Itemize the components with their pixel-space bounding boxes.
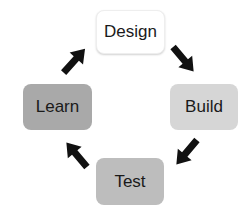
arrow-build-to-test-icon [169, 134, 203, 170]
cycle-arrows [0, 0, 248, 220]
arrow-test-to-learn-icon [59, 137, 93, 173]
arrow-design-to-build-icon [166, 41, 200, 77]
arrow-learn-to-design-icon [57, 43, 92, 79]
